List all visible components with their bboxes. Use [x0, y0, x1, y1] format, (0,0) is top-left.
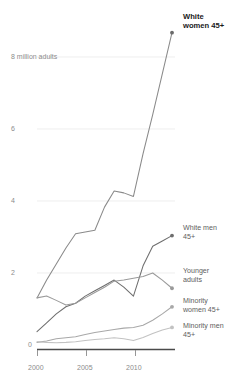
y-tick-label-2: 2	[11, 269, 15, 276]
line-chart: 8 million adults 6 4 2 0 2000 2005 2010 …	[0, 0, 239, 376]
series-label-minority-women: Minority women 45+	[183, 297, 220, 314]
x-axis-tick-labels: 2000 2005 2010	[28, 364, 142, 371]
series-line-white-men-45	[37, 236, 172, 332]
x-tick-label-2000: 2000	[28, 364, 44, 371]
data-series-group	[37, 31, 174, 343]
x-tick-label-2005: 2005	[77, 364, 93, 371]
chart-canvas: 8 million adults 6 4 2 0 2000 2005 2010	[0, 0, 239, 376]
series-line-minority-women-45	[37, 307, 172, 343]
series-endpoint-minority-women-45	[170, 305, 174, 309]
x-axis-ticks	[38, 350, 136, 356]
series-endpoint-younger-adults	[170, 286, 174, 290]
y-tick-label-6: 6	[11, 125, 15, 132]
series-line-minority-men-45	[37, 327, 172, 342]
series-endpoint-minority-men-45	[170, 326, 174, 330]
series-label-white-women: White women 45+	[183, 12, 224, 30]
y-tick-label-0: 0	[28, 341, 32, 348]
series-label-white-men: White men 45+	[183, 224, 217, 241]
series-label-minority-men: Minority men 45+	[183, 322, 224, 339]
series-label-younger-adults: Younger adults	[183, 267, 209, 284]
series-line-white-women-45	[37, 33, 172, 298]
y-tick-label-4: 4	[11, 197, 15, 204]
series-endpoint-white-men-45	[170, 234, 174, 238]
x-tick-label-2010: 2010	[126, 364, 142, 371]
series-endpoint-white-women-45	[170, 31, 174, 35]
gridlines	[37, 57, 175, 273]
y-axis-tick-labels: 8 million adults 6 4 2 0	[11, 53, 58, 348]
y-tick-label-8: 8 million adults	[11, 53, 58, 60]
series-line-younger-adults	[37, 273, 172, 305]
